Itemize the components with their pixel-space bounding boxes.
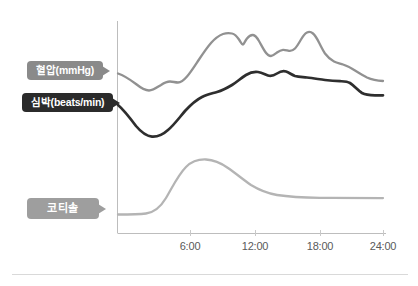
legend-chip-heart-rate[interactable]: 심박(beats/min) xyxy=(22,93,113,112)
legend-chip-cortisol[interactable]: 코티솔 xyxy=(27,198,99,219)
series-line-heart-rate xyxy=(118,71,383,137)
legend-label-heart-rate: 심박(beats/min) xyxy=(31,97,104,108)
x-axis-label-1800: 18:00 xyxy=(307,240,334,252)
legend-chip-blood-pressure[interactable]: 혈압(mmHg) xyxy=(27,61,103,80)
series-line-cortisol xyxy=(118,159,383,214)
legend-label-cortisol: 코티솔 xyxy=(47,203,79,214)
x-axis-label-0600: 6:00 xyxy=(180,240,201,252)
circadian-vitals-chart: 혈압(mmHg) 심박(beats/min) 코티솔 6:00 12:00 18… xyxy=(0,0,418,286)
footer-divider xyxy=(12,274,408,275)
x-axis-label-2400: 24:00 xyxy=(370,240,397,252)
legend-label-blood-pressure: 혈압(mmHg) xyxy=(36,65,94,76)
chart-plot-area xyxy=(0,0,418,286)
x-axis-label-1200: 12:00 xyxy=(242,240,269,252)
